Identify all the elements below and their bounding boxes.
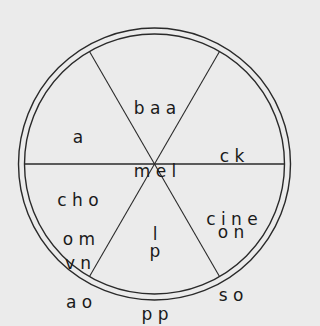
segment-bottom: p p p e e o i n: [115, 199, 195, 326]
segment-line: a: [38, 127, 118, 148]
segment-top-left: a c h o v n: [38, 85, 118, 295]
segment-line: c k: [190, 146, 274, 167]
segment-line: m e l: [115, 161, 195, 182]
segment-line: b a a: [115, 98, 195, 119]
segment-line: p: [115, 241, 195, 262]
segment-line: p p: [115, 304, 195, 325]
segment-line: o n: [196, 222, 266, 243]
segment-line: a o: [44, 292, 114, 313]
segment-line: s o: [196, 285, 266, 306]
segment-line: c h o: [38, 190, 118, 211]
segment-line: v n: [38, 253, 118, 274]
segment-bottom-right: o n s o n: [196, 180, 266, 326]
